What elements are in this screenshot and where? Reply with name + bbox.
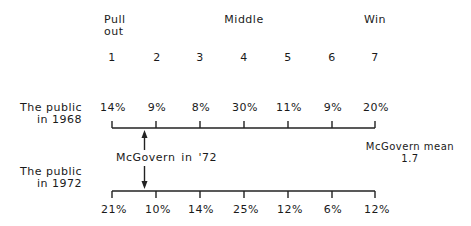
value-cell: 6%	[324, 204, 342, 216]
axes-diagram	[0, 0, 471, 226]
mcgovern-arrow-label: McGovern in '72	[116, 152, 217, 164]
value-cell: 25%	[233, 204, 259, 216]
mcgovern-mean-label: McGovern mean	[366, 141, 454, 153]
value-cell: 12%	[277, 204, 303, 216]
value-cell: 14%	[188, 204, 214, 216]
value-cell: 10%	[145, 204, 171, 216]
mcgovern-mean-value: 1.7	[401, 153, 418, 165]
row-label-line2: in 1972	[20, 178, 82, 190]
row-label-1972: The public in 1972	[20, 166, 82, 190]
value-cell: 21%	[101, 204, 127, 216]
value-cell: 12%	[364, 204, 390, 216]
